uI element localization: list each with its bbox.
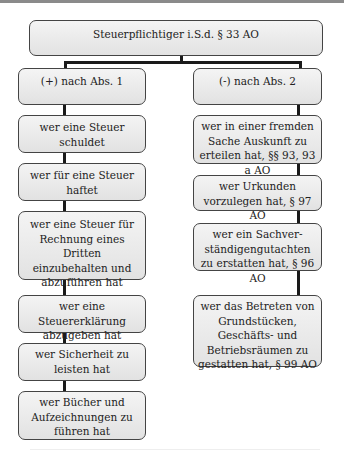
right-item-box: wer ein Sachver-ständigengutachten zu er… (193, 223, 322, 271)
left-item-label: wer Bücher und Aufzeichnungen zu führen … (31, 396, 133, 437)
root-label: Steuerpflichtiger i.S.d. § 33 AO (93, 28, 259, 40)
left-item-label: wer eine Steuer für Rechnung eines Dritt… (30, 218, 134, 288)
left-item-box: wer Sicherheit zu leisten hat (18, 343, 146, 381)
right-item-label: wer Urkunden vorzulegen hat, § 97 AO (203, 180, 311, 221)
connector-horizontal (64, 61, 302, 64)
right-header-label: (-) nach Abs. 2 (219, 75, 296, 87)
left-header-label: (+) nach Abs. 1 (41, 75, 123, 87)
right-item-box: wer in einer fremden Sache Auskunft zu e… (193, 115, 322, 164)
left-item-label: wer für eine Steuer haftet (30, 169, 134, 196)
left-item-box: wer eine Steuer schuldet (18, 115, 146, 153)
right-header-box: (-) nach Abs. 2 (193, 68, 322, 105)
left-item-label: wer Sicherheit zu leisten hat (35, 348, 129, 375)
left-item-box: wer für eine Steuer haftet (18, 163, 146, 201)
root-box: Steuerpflichtiger i.S.d. § 33 AO (29, 20, 323, 56)
left-item-box: wer eine Steuererklärung abzugeben hat (18, 295, 146, 333)
left-item-box: wer eine Steuer für Rechnung eines Dritt… (18, 211, 146, 280)
right-item-box: wer Urkunden vorzulegen hat, § 97 AO (193, 175, 322, 211)
left-header-box: (+) nach Abs. 1 (18, 68, 146, 105)
left-item-label: wer eine Steuererklärung abzugeben hat (38, 300, 126, 341)
left-item-box: wer Bücher und Aufzeichnungen zu führen … (18, 391, 146, 440)
right-item-box: wer das Betreten von Grundstücken, Gesch… (193, 295, 322, 367)
bottom-rule (30, 449, 320, 450)
left-item-label: wer eine Steuer schuldet (39, 121, 124, 148)
top-rule (0, 0, 344, 3)
right-item-label: wer das Betreten von Grundstücken, Gesch… (198, 300, 317, 370)
